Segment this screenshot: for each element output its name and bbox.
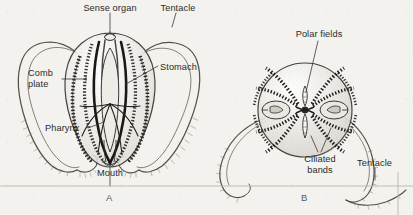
figure-caption-b: B bbox=[301, 192, 308, 203]
panel-a-drawing bbox=[18, 13, 200, 186]
label-mouth: Mouth bbox=[86, 168, 134, 178]
label-sense-organ: Sense organ bbox=[72, 3, 148, 13]
label-comb-plate-line2: plate bbox=[28, 79, 48, 89]
label-pharynx: Pharynx bbox=[45, 123, 79, 133]
label-tentacle-a: Tentacle bbox=[152, 3, 204, 13]
ctenophore-illustration bbox=[0, 0, 413, 215]
page-rules bbox=[0, 172, 413, 215]
label-polar-fields: Polar fields bbox=[288, 29, 350, 39]
label-stomach: Stomach bbox=[160, 62, 197, 72]
figure-plate: Sense organ Tentacle Comb plate Stomach … bbox=[0, 0, 413, 215]
label-ciliated-bands-line2: bands bbox=[296, 165, 344, 175]
panel-b-drawing bbox=[217, 41, 406, 209]
label-comb-plate-line1: Comb bbox=[28, 68, 53, 78]
label-ciliated-bands-line1: Ciliated bbox=[296, 154, 344, 164]
label-tentacle-b: Tentacle bbox=[357, 158, 392, 168]
figure-caption-a: A bbox=[106, 192, 113, 203]
